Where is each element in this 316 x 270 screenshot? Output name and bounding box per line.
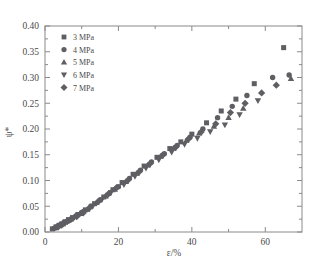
y-tick-label: 0.15 xyxy=(22,150,39,160)
data-point xyxy=(181,142,187,148)
y-axis-ticks xyxy=(45,26,302,232)
legend-label: 6 MPa xyxy=(73,71,95,80)
data-point xyxy=(227,109,234,116)
y-axis-tick-labels: 0.000.050.100.150.200.250.300.350.40 xyxy=(22,21,39,237)
data-point xyxy=(230,104,235,109)
data-point xyxy=(236,112,242,118)
chart-legend: 3 MPa4 MPa5 MPa6 MPa7 MPa xyxy=(61,33,95,92)
data-point xyxy=(244,93,249,98)
y-tick-label: 0.05 xyxy=(22,202,39,212)
x-tick-label: 40 xyxy=(187,237,197,247)
data-point xyxy=(121,182,127,188)
plot-frame xyxy=(45,26,302,232)
y-tick-label: 0.10 xyxy=(22,176,39,186)
y-tick-label: 0.25 xyxy=(22,99,39,109)
data-point xyxy=(252,81,257,86)
data-point xyxy=(207,129,213,135)
legend-marker xyxy=(61,84,68,91)
data-point xyxy=(194,136,200,142)
y-tick-label: 0.20 xyxy=(22,124,39,134)
y-tick-label: 0.40 xyxy=(22,21,39,31)
data-point xyxy=(168,150,174,156)
legend-label: 4 MPa xyxy=(73,46,95,55)
legend-label: 7 MPa xyxy=(73,84,95,93)
x-tick-label: 0 xyxy=(43,237,48,247)
data-point xyxy=(215,115,220,120)
data-point xyxy=(219,108,224,113)
x-tick-label: 60 xyxy=(261,237,271,247)
legend-marker xyxy=(61,72,67,78)
data-point xyxy=(143,166,149,172)
y-axis-label: ψ* xyxy=(4,126,14,137)
data-point xyxy=(258,89,265,96)
legend-label: 3 MPa xyxy=(73,33,95,42)
data-point xyxy=(156,157,162,163)
data-point xyxy=(270,75,275,80)
y-tick-label: 0.35 xyxy=(22,47,39,57)
y-tick-label: 0.30 xyxy=(22,73,39,83)
x-axis-label: ε/% xyxy=(167,248,182,258)
data-point xyxy=(241,100,248,107)
legend-marker xyxy=(62,35,67,40)
data-point xyxy=(204,120,209,125)
x-axis-ticks xyxy=(45,26,265,232)
x-tick-label: 20 xyxy=(114,237,124,247)
legend-label: 5 MPa xyxy=(73,58,95,67)
data-point xyxy=(281,45,286,50)
data-point xyxy=(255,98,261,104)
data-point xyxy=(132,174,138,180)
x-axis-tick-labels: 0204060 xyxy=(43,237,271,247)
data-point xyxy=(233,97,238,102)
chart-canvas: 0204060 0.000.050.100.150.200.250.300.35… xyxy=(0,0,316,270)
legend-marker xyxy=(61,47,66,52)
scatter-chart: 0204060 0.000.050.100.150.200.250.300.35… xyxy=(0,0,316,270)
y-tick-label: 0.00 xyxy=(22,227,39,237)
data-point xyxy=(273,82,280,89)
data-point xyxy=(222,122,228,128)
legend-marker xyxy=(61,59,67,65)
plot-border xyxy=(45,26,302,232)
